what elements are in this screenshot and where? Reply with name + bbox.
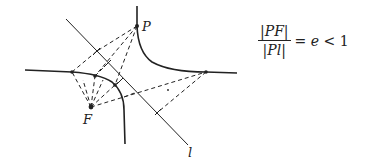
rhs-suffix: < 1 — [319, 33, 349, 49]
eccentricity-formula: |PF| |Pl| = e < 1 — [258, 22, 349, 59]
left-point-3 — [113, 83, 117, 87]
label-f: F — [82, 112, 93, 127]
fraction: |PF| |Pl| — [258, 22, 291, 59]
formula-rhs: = e < 1 — [295, 33, 349, 49]
left-branch-curve — [25, 70, 125, 144]
fraction-denominator: |Pl| — [261, 41, 288, 59]
rhs-prefix: = — [295, 33, 311, 49]
fraction-numerator: |PF| — [258, 22, 291, 40]
eccentricity-symbol: e — [311, 33, 319, 49]
label-l: l — [188, 145, 192, 160]
stray-dot — [167, 89, 169, 91]
left-point-1 — [70, 70, 74, 74]
label-p: P — [141, 19, 151, 34]
point-p-dot — [135, 24, 139, 28]
right-point — [204, 70, 208, 74]
right-branch-curve — [137, 6, 237, 73]
focus-rays — [72, 72, 206, 107]
left-point-2 — [93, 74, 97, 78]
focus-dot — [89, 105, 94, 110]
